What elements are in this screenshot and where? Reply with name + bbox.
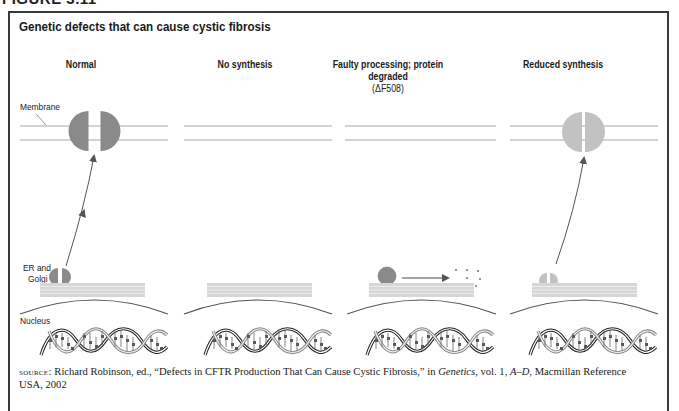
source-text-1: Richard Robinson, ed., “Defects in CFTR … [52,366,438,377]
reduced-membrane-protein [562,112,605,152]
source-text-2: , vol. 1, [475,366,510,377]
source-prefix: source: [19,366,52,377]
source-italic-2: A–D [510,366,529,377]
source-citation: source: Richard Robinson, ed., “Defects … [19,365,639,391]
normal-membrane-protein [69,111,121,151]
source-italic-1: Genetics [438,366,475,377]
